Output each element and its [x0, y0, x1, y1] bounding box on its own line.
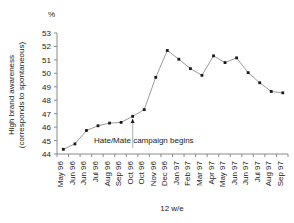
y-tick-label: 53 [42, 29, 51, 38]
y-tick-label: 44 [42, 150, 51, 159]
data-point-marker [62, 148, 65, 151]
x-tick-label: Feb 97 [183, 160, 192, 185]
y-tick-label: 51 [42, 56, 51, 65]
data-point-marker [258, 81, 261, 84]
x-tick-label: May 96 [56, 160, 65, 187]
data-point-marker [235, 56, 238, 59]
data-point-marker [143, 108, 146, 111]
data-point-marker [247, 71, 250, 74]
x-axis-ticks [57, 154, 288, 157]
x-axis-title: 12 w/e [160, 204, 184, 213]
x-tick-label: Aug 96 [103, 160, 112, 186]
x-tick-label: Nov 96 [149, 160, 158, 186]
data-point-marker [120, 121, 123, 124]
data-point-marker [85, 129, 88, 132]
x-tick-label: Oct 96 [137, 160, 146, 184]
data-point-marker [97, 124, 100, 127]
x-tick-label: May 97 [218, 160, 227, 187]
data-point-marker [154, 76, 157, 79]
data-point-marker [108, 122, 111, 125]
data-point-marker [166, 49, 169, 52]
x-tick-label: Oct 96 [126, 160, 135, 184]
x-tick-label: Sep 96 [114, 160, 123, 186]
x-tick-label: Jan 97 [172, 160, 181, 185]
x-tick-label: Aug 97 [264, 160, 273, 186]
y-tick-label: 50 [42, 69, 51, 78]
x-tick-label: Mar 97 [195, 160, 204, 185]
x-tick-label: Jun 96 [68, 160, 77, 185]
x-tick-label: Jun 96 [79, 160, 88, 185]
y-tick-label: 52 [42, 42, 51, 51]
x-tick-label: Jun 97 [241, 160, 250, 185]
chart-container: % High brand awareness (corresponds to s… [0, 0, 294, 223]
data-point-marker [224, 61, 227, 64]
y-tick-label: 46 [42, 123, 51, 132]
data-point-marker [189, 67, 192, 70]
y-tick-label: 48 [42, 96, 51, 105]
y-tick-label: 47 [42, 110, 51, 119]
x-tick-label: Jul 97 [253, 160, 262, 182]
y-unit-label: % [48, 10, 55, 19]
data-point-marker [201, 74, 204, 77]
data-point-marker [74, 143, 77, 146]
x-tick-label: Jul 96 [91, 160, 100, 182]
x-tick-label: Jun 97 [230, 160, 239, 185]
data-point-marker [131, 115, 134, 118]
campaign-annotation-label: Hate/Mate campaign begins [94, 136, 194, 145]
x-tick-label: Dec 96 [160, 160, 169, 186]
data-point-marker [281, 91, 284, 94]
data-point-marker [177, 58, 180, 61]
y-tick-label: 45 [42, 137, 51, 146]
y-axis-title-line1: High brand awareness [7, 55, 16, 135]
y-axis-title-line2: (corresponds to spontaneous) [17, 42, 26, 149]
x-tick-label: Apr 97 [207, 160, 216, 184]
y-tick-label: 49 [42, 83, 51, 92]
data-point-marker [270, 90, 273, 93]
data-point-marker [212, 54, 215, 57]
x-tick-label: Sep 97 [276, 160, 285, 186]
line-chart: % High brand awareness (corresponds to s… [0, 0, 294, 223]
